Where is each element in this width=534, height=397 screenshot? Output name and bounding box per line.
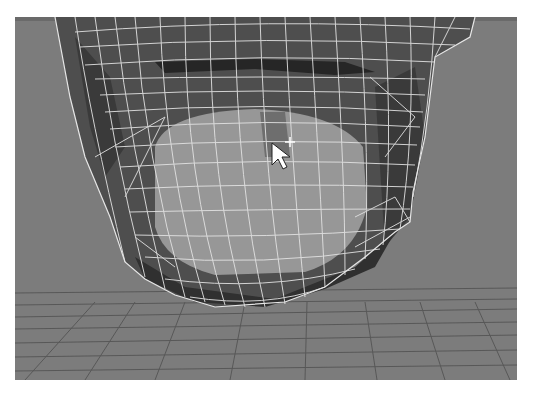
move-crosshair-icon	[285, 137, 295, 147]
arrow-pointer-icon	[270, 135, 300, 175]
scene	[15, 17, 517, 380]
3d-viewport[interactable]	[15, 17, 517, 380]
